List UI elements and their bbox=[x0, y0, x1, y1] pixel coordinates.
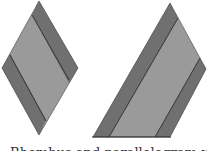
figure-caption: Rhombus and parallelogram with strips bbox=[10, 145, 207, 151]
left-rhombus bbox=[2, 1, 78, 135]
right-parallelogram bbox=[92, 3, 206, 137]
figure-canvas bbox=[0, 0, 207, 151]
